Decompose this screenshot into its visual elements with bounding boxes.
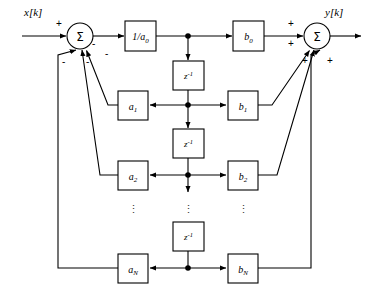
tap-row-n: [150, 265, 226, 271]
gain-block-1-over-a0: 1/a0: [125, 21, 156, 51]
feedforward-block-b2: b2: [228, 161, 258, 190]
ellipsis-glyph-feedback: ⋮: [128, 203, 139, 215]
an-return-path: [58, 50, 118, 268]
output-signal-label: y[k]: [325, 2, 343, 20]
b2-feed-path: [258, 50, 314, 175]
delay-block-2: z-1: [173, 129, 204, 158]
delay-block-3: z-1: [173, 222, 204, 251]
top-forward-wire: [156, 33, 232, 39]
feedforward-block-b1: b1: [228, 91, 258, 120]
ellipsis-feedforward-column: ⋮: [238, 203, 249, 215]
ellipsis-feedback-column: ⋮: [128, 203, 139, 215]
left-summer: Σ: [67, 23, 93, 49]
delay-block-1: z-1: [173, 61, 204, 90]
right-summer-symbol: Σ: [313, 30, 321, 44]
sign-right-plus-4: +: [327, 55, 333, 66]
bn-feed-path: [258, 50, 320, 268]
ellipsis-glyph-delay: ⋮: [183, 203, 194, 215]
ellipsis-glyph-feedforward: ⋮: [238, 203, 249, 215]
feedback-block-a2: a2: [118, 161, 148, 190]
figure-canvas: Σ 1/a0 b0 Σ: [0, 0, 376, 292]
block-diagram: Σ 1/a0 b0 Σ: [0, 0, 376, 292]
ellipsis-delay-column: ⋮: [183, 203, 194, 215]
sign-right-plus-3: +: [302, 55, 308, 66]
sign-left-input-plus: +: [56, 18, 62, 29]
feedforward-block-bn: bN: [228, 254, 258, 283]
feedforward-block-b0: b0: [233, 21, 264, 51]
sign-right-plus-1: +: [288, 18, 294, 29]
sign-left-minus-3: -: [62, 56, 65, 67]
right-summer: Σ: [304, 23, 330, 49]
input-signal-label: x[k]: [24, 2, 42, 20]
sign-left-minus-4: -: [105, 48, 108, 59]
sign-left-minus-1: -: [92, 38, 95, 49]
feedback-block-an: aN: [118, 254, 148, 283]
sign-left-minus-2: -: [86, 56, 89, 67]
a2-return-path: [82, 50, 118, 175]
a1-return-path: [87, 51, 119, 106]
tap-row-2: [150, 172, 226, 178]
tap-row-1: [150, 102, 226, 108]
left-summer-symbol: Σ: [76, 30, 84, 44]
sign-right-plus-2: +: [288, 38, 294, 49]
feedback-block-a1: a1: [118, 91, 148, 120]
